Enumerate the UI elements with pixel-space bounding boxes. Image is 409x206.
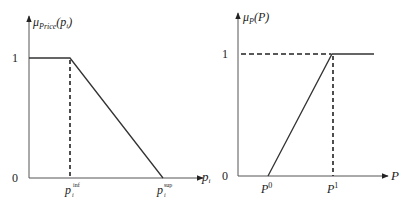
left-origin: 0 xyxy=(12,171,18,185)
tick-p-inf-sup: inf xyxy=(73,182,80,188)
right-x-axis-label: P xyxy=(390,168,399,183)
left-x-axis-label: pi xyxy=(201,169,211,185)
tick-p0: P0 xyxy=(260,181,272,196)
left-y-axis-label: μPrice(pi) xyxy=(32,15,72,31)
left-membership-curve xyxy=(29,58,163,178)
tick-p-sup: p xyxy=(156,183,163,197)
right-membership-curve xyxy=(268,54,374,176)
right-origin: 0 xyxy=(222,169,228,183)
right-y-axis-label: μP(P) xyxy=(242,10,269,26)
tick-p-sup-sup: sup xyxy=(164,182,172,188)
tick-p-sup-sub: i xyxy=(164,192,166,198)
tick-p1: P1 xyxy=(326,181,338,196)
left-y-tick-one: 1 xyxy=(12,51,18,65)
right-chart: 1 0 μP(P) P P0 P1 xyxy=(222,10,399,196)
left-chart: 1 0 μPrice(pi) pi p inf i p sup i xyxy=(12,15,211,198)
tick-p-inf-sub: i xyxy=(72,192,74,198)
right-y-tick-one: 1 xyxy=(222,47,228,61)
tick-p-inf: p xyxy=(64,183,71,197)
